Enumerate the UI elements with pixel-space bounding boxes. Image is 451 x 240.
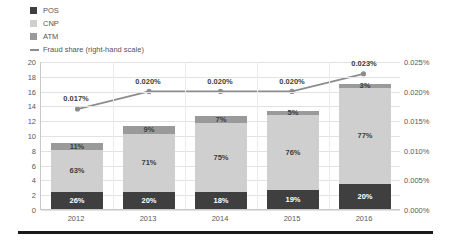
bar-segment-cnp[interactable]: 76% bbox=[267, 115, 319, 190]
legend-swatch-icon bbox=[30, 7, 37, 14]
y-axis-left: 02468101214161820 bbox=[12, 62, 36, 210]
legend-line-icon bbox=[30, 49, 39, 51]
bar-group-2012[interactable]: 26%63%11% bbox=[51, 61, 103, 209]
bar-segment-cnp[interactable]: 75% bbox=[195, 123, 247, 192]
bar-segment-atm[interactable]: 3% bbox=[339, 84, 391, 88]
fraud-share-point-label: 0.020% bbox=[135, 77, 160, 86]
legend-item-pos[interactable]: POS bbox=[30, 5, 280, 16]
x-axis-tick-label: 2015 bbox=[284, 214, 301, 223]
bar-segment-pos[interactable]: 18% bbox=[195, 192, 247, 209]
bar-segment-label: 76% bbox=[285, 149, 300, 157]
y-axis-right-tick-label: 0.000% bbox=[404, 206, 429, 215]
x-axis-tick-label: 2012 bbox=[68, 214, 85, 223]
legend-swatch-icon bbox=[30, 33, 37, 40]
bar-segment-pos[interactable]: 20% bbox=[123, 192, 175, 209]
bar-segment-label: 63% bbox=[69, 167, 84, 175]
category-separator bbox=[257, 62, 258, 209]
fraud-share-chart: POSCNPATMFraud share (right-hand scale) … bbox=[0, 0, 451, 240]
y-axis-left-tick-label: 14 bbox=[28, 102, 36, 111]
bar-segment-label: 19% bbox=[285, 196, 300, 204]
legend-item-cnp[interactable]: CNP bbox=[30, 18, 280, 29]
y-axis-right-tick-label: 0.005% bbox=[404, 176, 429, 185]
x-axis-tick-label: 2016 bbox=[356, 214, 373, 223]
bar-segment-atm[interactable]: 11% bbox=[51, 143, 103, 150]
bar-segment-atm[interactable]: 9% bbox=[123, 126, 175, 133]
legend-swatch-icon bbox=[30, 20, 37, 27]
legend-item-label: CNP bbox=[43, 18, 59, 29]
bar-segment-atm[interactable]: 5% bbox=[267, 111, 319, 116]
bar-segment-label: 3% bbox=[360, 82, 371, 90]
x-axis-tick-label: 2014 bbox=[212, 214, 229, 223]
bar-segment-pos[interactable]: 19% bbox=[267, 190, 319, 209]
y-axis-left-tick-label: 12 bbox=[28, 117, 36, 126]
fraud-share-point-label: 0.020% bbox=[207, 77, 232, 86]
bar-segment-cnp[interactable]: 63% bbox=[51, 150, 103, 192]
chart-legend: POSCNPATMFraud share (right-hand scale) bbox=[30, 5, 280, 57]
y-axis-left-tick-label: 4 bbox=[32, 176, 36, 185]
y-axis-left-tick-label: 20 bbox=[28, 58, 36, 67]
bar-segment-label: 9% bbox=[144, 126, 155, 134]
y-axis-left-tick-label: 8 bbox=[32, 146, 36, 155]
bar-segment-label: 7% bbox=[216, 116, 227, 124]
bar-segment-label: 71% bbox=[141, 159, 156, 167]
legend-item-atm[interactable]: ATM bbox=[30, 31, 280, 42]
y-axis-right-tick-label: 0.010% bbox=[404, 146, 429, 155]
legend-item-label: ATM bbox=[43, 31, 58, 42]
bar-segment-label: 18% bbox=[213, 197, 228, 205]
y-axis-right: 0.000%0.005%0.010%0.015%0.020%0.025% bbox=[404, 62, 450, 210]
fraud-share-point-label: 0.017% bbox=[63, 94, 88, 103]
bar-segment-label: 75% bbox=[213, 154, 228, 162]
bar-segment-cnp[interactable]: 71% bbox=[123, 134, 175, 193]
bar-segment-atm[interactable]: 7% bbox=[195, 116, 247, 123]
category-separator bbox=[185, 62, 186, 209]
gridline bbox=[41, 210, 400, 211]
bar-segment-label: 20% bbox=[141, 197, 156, 205]
bar-segment-label: 77% bbox=[357, 132, 372, 140]
bar-segment-cnp[interactable]: 77% bbox=[339, 88, 391, 184]
x-axis-tick-label: 2013 bbox=[140, 214, 157, 223]
y-axis-left-tick-label: 18 bbox=[28, 72, 36, 81]
bar-segment-label: 5% bbox=[288, 109, 299, 117]
category-separator bbox=[113, 62, 114, 209]
legend-item-label: Fraud share (right-hand scale) bbox=[43, 44, 144, 55]
y-axis-left-tick-label: 16 bbox=[28, 87, 36, 96]
legend-item-fraud[interactable]: Fraud share (right-hand scale) bbox=[30, 44, 280, 55]
bottom-divider bbox=[18, 231, 433, 234]
bar-segment-label: 11% bbox=[70, 143, 85, 151]
category-separator bbox=[329, 62, 330, 209]
y-axis-right-tick-label: 0.020% bbox=[404, 87, 429, 96]
fraud-share-point-label: 0.023% bbox=[351, 59, 376, 68]
bar-segment-label: 20% bbox=[357, 193, 372, 201]
y-axis-left-tick-label: 0 bbox=[32, 206, 36, 215]
y-axis-left-tick-label: 10 bbox=[28, 132, 36, 141]
bar-segment-label: 26% bbox=[69, 197, 84, 205]
y-axis-right-tick-label: 0.015% bbox=[404, 117, 429, 126]
y-axis-left-tick-label: 6 bbox=[32, 161, 36, 170]
fraud-share-point-label: 0.020% bbox=[279, 77, 304, 86]
bar-segment-pos[interactable]: 26% bbox=[51, 192, 103, 209]
bar-segment-pos[interactable]: 20% bbox=[339, 184, 391, 209]
legend-item-label: POS bbox=[43, 5, 59, 16]
y-axis-left-tick-label: 2 bbox=[32, 191, 36, 200]
y-axis-right-tick-label: 0.025% bbox=[404, 58, 429, 67]
bar-group-2016[interactable]: 20%77%3% bbox=[339, 61, 391, 209]
